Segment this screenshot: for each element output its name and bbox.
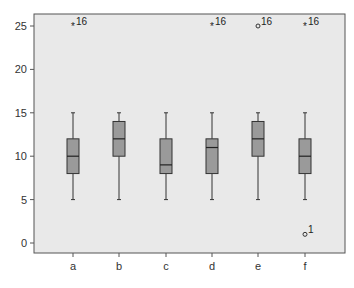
iqr-box [160, 139, 172, 174]
x-tick-label: e [255, 260, 261, 272]
outlier-label: 16 [76, 16, 88, 27]
y-tick-label: 0 [21, 237, 27, 249]
x-axis: abcdef [70, 253, 308, 272]
x-tick-label: d [209, 260, 215, 272]
outlier-label: 16 [308, 16, 320, 27]
x-tick-label: f [303, 260, 307, 272]
y-tick-label: 5 [21, 194, 27, 206]
outlier-star-icon: * [303, 21, 307, 32]
outlier-label: 16 [261, 16, 273, 27]
outlier-label: 16 [215, 16, 227, 27]
outlier-star-icon: * [71, 21, 75, 32]
y-tick-label: 15 [15, 107, 27, 119]
outlier-label: 1 [308, 224, 314, 235]
outlier-star-icon: * [210, 21, 214, 32]
plot-area [34, 14, 345, 253]
iqr-box [206, 139, 218, 174]
y-tick-label: 10 [15, 150, 27, 162]
x-tick-label: b [116, 260, 122, 272]
y-tick-label: 25 [15, 20, 27, 32]
x-tick-label: a [70, 260, 77, 272]
y-tick-label: 20 [15, 63, 27, 75]
x-tick-label: c [163, 260, 169, 272]
y-axis: 0510152025 [15, 20, 34, 249]
boxplot-chart: 0510152025 abcdef *16*1616*161 [0, 0, 354, 288]
